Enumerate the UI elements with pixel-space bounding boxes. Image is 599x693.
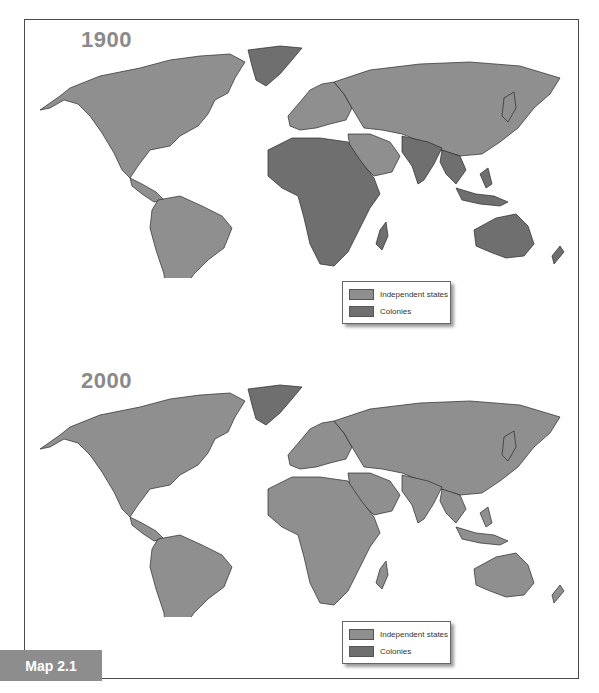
legend-item-colonies: Colonies [349,645,411,657]
legend-item-independent: Independent states [349,628,448,640]
legend-label: Independent states [380,630,448,639]
independent-swatch [349,629,374,640]
map-legend: Independent states Colonies [342,621,451,664]
colonies-swatch [349,646,374,657]
legend-item-independent: Independent states [349,288,448,300]
map-caption-tab: Map 2.1 [0,650,102,681]
colonies-swatch [349,306,374,317]
world-map-2000 [30,377,580,617]
independent-swatch [349,289,374,300]
world-map-1900 [30,38,580,278]
legend-label: Independent states [380,290,448,299]
legend-item-colonies: Colonies [349,305,411,317]
legend-label: Colonies [380,307,411,316]
legend-label: Colonies [380,647,411,656]
map-panel-2000: 2000 Independent states Colonies [0,335,599,675]
map-caption-label: Map 2.1 [25,658,76,674]
map-panel-1900: 1900 Independent states Colonies [0,0,599,340]
map-legend: Independent states Colonies [342,281,451,324]
